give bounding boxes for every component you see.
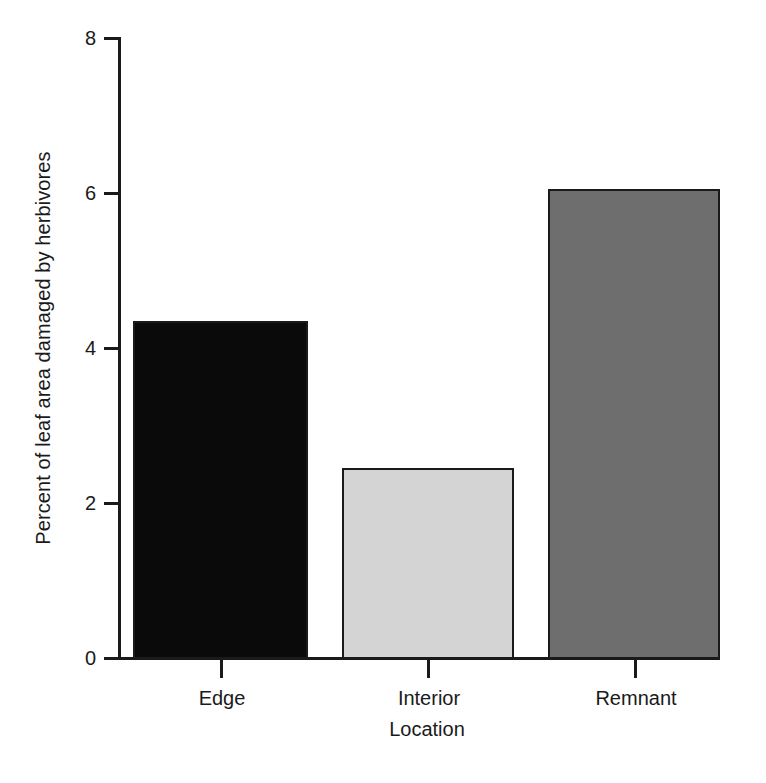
x-axis-label: Location — [327, 717, 527, 741]
x-tick-label-edge: Edge — [122, 686, 322, 710]
y-tick-mark-2 — [104, 502, 120, 505]
x-tick-mark-edge — [220, 660, 223, 678]
bar-edge[interactable] — [133, 321, 308, 659]
y-tick-mark-8 — [104, 37, 120, 40]
bar-remnant[interactable] — [548, 189, 720, 659]
y-tick-mark-6 — [104, 192, 120, 195]
bar-chart-figure: Percent of leaf area damaged by herbivor… — [0, 0, 766, 783]
y-tick-label-2: 2 — [62, 493, 96, 513]
bar-interior[interactable] — [342, 468, 514, 659]
y-tick-mark-0 — [104, 657, 120, 660]
y-tick-label-6: 6 — [62, 183, 96, 203]
y-tick-mark-4 — [104, 347, 120, 350]
x-tick-label-remnant: Remnant — [536, 686, 736, 710]
x-tick-mark-interior — [427, 660, 430, 678]
x-tick-label-interior: Interior — [329, 686, 529, 710]
y-tick-label-4: 4 — [62, 338, 96, 358]
x-tick-mark-remnant — [634, 660, 637, 678]
y-tick-label-8: 8 — [62, 28, 96, 48]
y-tick-label-0: 0 — [62, 648, 96, 668]
y-axis-label: Percent of leaf area damaged by herbivor… — [30, 38, 56, 658]
